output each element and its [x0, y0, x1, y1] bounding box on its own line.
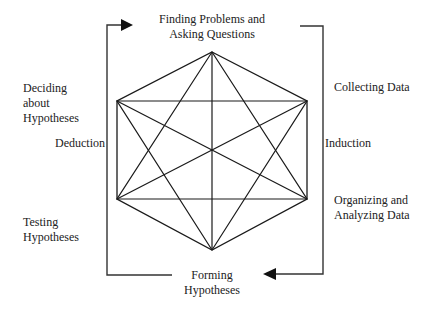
inquiry-hexagon-diagram	[0, 0, 430, 310]
induction-bracket	[274, 26, 323, 274]
hexagon-long-diagonals	[117, 52, 307, 250]
node-label-line: Deciding	[23, 81, 79, 96]
node-label-line: Hypotheses	[23, 230, 79, 245]
node-label-forming-hypotheses: Forming Hypotheses	[172, 268, 252, 298]
deduction-label: Deduction	[55, 136, 105, 151]
node-label-deciding-hypotheses: Deciding about Hypotheses	[23, 81, 79, 126]
induction-label: Induction	[325, 136, 371, 151]
node-label-line: Testing	[23, 215, 79, 230]
induction-text: Induction	[325, 136, 371, 150]
node-label-line: about	[23, 96, 79, 111]
node-label-line: Collecting Data	[334, 80, 410, 94]
node-label-line: Hypotheses	[172, 283, 252, 298]
node-label-line: Analyzing Data	[334, 208, 410, 223]
node-label-finding-problems: Finding Problems and Asking Questions	[152, 12, 272, 42]
induction-arrowhead-icon	[263, 268, 276, 280]
node-label-line: Forming	[172, 268, 252, 283]
node-label-line: Hypotheses	[23, 111, 79, 126]
node-label-testing-hypotheses: Testing Hypotheses	[23, 215, 79, 245]
node-label-line: Organizing and	[334, 193, 410, 208]
node-label-collecting-data: Collecting Data	[334, 80, 410, 95]
node-label-organizing-data: Organizing and Analyzing Data	[334, 193, 410, 223]
node-label-line: Finding Problems and	[152, 12, 272, 27]
deduction-arrowhead-icon	[121, 19, 133, 31]
deduction-text: Deduction	[55, 136, 105, 150]
node-label-line: Asking Questions	[152, 27, 272, 42]
